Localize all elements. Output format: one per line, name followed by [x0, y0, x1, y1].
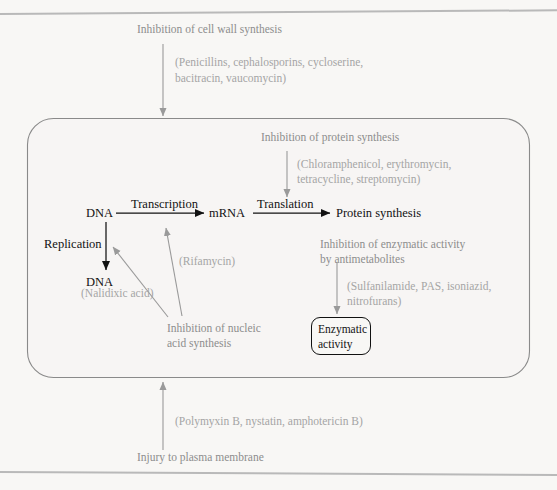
- plasma-membrane-injury-heading: Injury to plasma membrane: [137, 451, 264, 465]
- antimicrobial-action-diagram: Inhibition of cell wall synthesis (Penic…: [0, 0, 557, 490]
- protein-synthesis-drugs-line2: tetracycline, streptomycin): [297, 173, 420, 187]
- enzymatic-activity-box-line1: Enzymatic: [318, 322, 367, 336]
- mrna-label: mRNA: [209, 206, 245, 221]
- nalidixic-acid-label: (Nalidixic acid): [81, 287, 153, 301]
- protein-synthesis-label: Protein synthesis: [336, 206, 421, 221]
- cell-wall-drugs-line2: bacitracin, vaucomycin): [175, 72, 286, 86]
- enzymatic-drugs-line1: (Sulfanilamide, PAS, isoniazid,: [347, 280, 491, 294]
- enzymatic-activity-box-line2: activity: [318, 337, 353, 351]
- plasma-membrane-drugs: (Polymyxin B, nystatin, amphotericin B): [175, 415, 363, 429]
- cell-wall-synthesis-heading: Inhibition of cell wall synthesis: [137, 23, 282, 37]
- translation-label: Translation: [257, 197, 314, 212]
- enzymatic-drugs-line2: nitrofurans): [347, 295, 401, 309]
- nucleic-acid-inhibition-heading-line2: acid synthesis: [167, 337, 231, 351]
- enzymatic-activity-box: Enzymatic activity: [311, 317, 371, 355]
- protein-synthesis-inhibition-heading: Inhibition of protein synthesis: [261, 131, 399, 145]
- protein-synthesis-drugs-line1: (Chloramphenicol, erythromycin,: [297, 158, 451, 172]
- nucleic-acid-inhibition-heading-line1: Inhibition of nucleic: [167, 322, 261, 336]
- transcription-label: Transcription: [131, 197, 198, 212]
- enzymatic-inhibition-heading-line1: Inhibition of enzymatic activity: [320, 238, 465, 252]
- dna-top-label: DNA: [86, 206, 113, 221]
- replication-label: Replication: [44, 237, 102, 252]
- rifamycin-label: (Rifamycin): [179, 255, 235, 269]
- cell-wall-drugs-line1: (Penicillins, cephalosporins, cycloserin…: [175, 56, 363, 70]
- enzymatic-inhibition-heading-line2: by antimetabolites: [320, 253, 405, 267]
